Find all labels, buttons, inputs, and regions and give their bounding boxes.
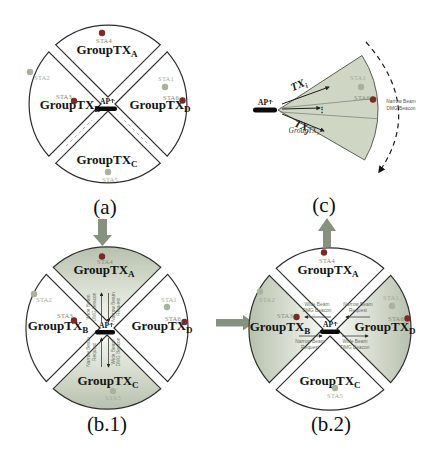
ap-antenna-icon <box>111 99 115 103</box>
sta1-dot <box>358 84 364 90</box>
sta2-label: STA2 <box>259 296 275 303</box>
caption-c: (c) <box>312 193 335 217</box>
sta6-label: STA6 <box>163 94 179 101</box>
sta1-dot <box>162 84 168 90</box>
panel-b1: GroupTXA GroupTXB GroupTXD GroupTXC STA4… <box>26 247 193 436</box>
narrow-beam-beacon-note-line2: DMG Beacon <box>387 106 416 111</box>
msg-narrow-beam-up: Narrow Beam <box>111 292 116 321</box>
sta2-dot <box>27 69 33 75</box>
panel-c: TXi ⋮ TXj STA1 STA6 Narrow Beam DMG Beac… <box>253 42 416 217</box>
group-n-label: GroupTXn <box>289 126 320 136</box>
msg-dmg-beacon-down: DMG Beacon <box>116 337 121 366</box>
sta6-dot <box>370 96 376 102</box>
ap-antenna-icon <box>110 323 114 327</box>
sta1-label: STA1 <box>161 296 177 303</box>
ap-device <box>320 330 340 335</box>
group-c-label: GroupTXC <box>299 373 360 390</box>
sta1-label: STA1 <box>383 294 399 301</box>
msg-dmg-beacon-up: DMG Beacon <box>92 292 97 321</box>
msg-narrow-beam-left: Narrow Beam <box>295 339 324 344</box>
sta5-dot <box>105 169 111 175</box>
connector-a-to-b1 <box>93 219 112 246</box>
ap-device <box>253 108 277 113</box>
group-c-label: GroupTXC <box>77 373 138 390</box>
msg-wide-beam-up: Wide Beam <box>86 295 91 320</box>
sta1-dot <box>164 304 170 310</box>
sta3-dot <box>71 317 77 323</box>
msg-request-right: Request <box>349 308 368 313</box>
sta3-label: STA3 <box>277 312 293 319</box>
group-b-label: GroupTXB <box>250 319 311 336</box>
beamforming-figure: GroupTXA GroupTXB GroupTXD GroupTXC STA4… <box>0 0 437 459</box>
sta1-dot <box>389 303 395 309</box>
ap-device <box>95 330 115 335</box>
sta1-label: STA1 <box>158 75 174 82</box>
sta5-label: STA5 <box>327 392 343 399</box>
msg-dmg-beacon-left: DMG Beacon <box>303 308 332 313</box>
msg-dmg-beacon-right: DMG Beacon <box>341 345 370 350</box>
ap-label: AP <box>99 321 109 330</box>
sta6-dot <box>181 319 187 325</box>
sta3-dot <box>293 314 299 320</box>
ap-device <box>95 107 117 112</box>
msg-wide-beam-right: Wide Beam <box>343 339 368 344</box>
tx-ellipsis: ⋮ <box>318 105 326 114</box>
ap-antenna-icon <box>269 100 273 104</box>
sta4-label: STA4 <box>319 257 335 264</box>
group-c-label: GroupTXC <box>76 152 137 169</box>
narrow-beam-fan <box>278 56 378 161</box>
sta2-dot <box>257 288 263 294</box>
caption-b1: (b.1) <box>87 412 127 436</box>
ap-label: AP <box>323 320 333 329</box>
caption-a: (a) <box>93 195 116 219</box>
msg-request-down: Request <box>92 342 97 361</box>
sta4-label: STA4 <box>97 258 113 265</box>
sta4-dot <box>99 30 105 36</box>
sta3-dot <box>71 98 77 104</box>
msg-request-left: Request <box>301 345 320 350</box>
caption-b2: (b.2) <box>311 412 351 436</box>
panel-a: GroupTXA GroupTXB GroupTXD GroupTXC STA4… <box>27 25 191 219</box>
sta4-label: STA4 <box>96 37 112 44</box>
ap-antenna-icon <box>334 322 338 326</box>
figure-canvas: GroupTXA GroupTXB GroupTXD GroupTXC STA4… <box>0 0 437 459</box>
sta6-label: STA6 <box>388 315 404 322</box>
connector-b1-to-b2 <box>216 315 254 331</box>
sta6-label: STA6 <box>165 315 181 322</box>
msg-wide-beam-left: Wide Beam <box>305 302 330 307</box>
sta2-label: STA2 <box>36 296 52 303</box>
msg-narrow-beam-down: Narrow Beam <box>86 337 91 366</box>
sta2-label: STA2 <box>34 74 50 81</box>
msg-request-up: Request <box>116 297 121 316</box>
group-a-label: GroupTXA <box>297 262 359 279</box>
sta3-label: STA3 <box>56 93 72 100</box>
panel-b2: GroupTXA GroupTXB GroupTXD GroupTXC STA4… <box>249 248 416 436</box>
ap-label: AP <box>258 98 268 107</box>
sta6-label: STA6 <box>354 94 370 101</box>
narrow-beam-beacon-note-line1: Narrow Beam <box>386 99 415 104</box>
ap-label: AP <box>100 97 110 106</box>
sta6-dot <box>179 97 185 103</box>
sta5-label: STA5 <box>102 176 118 183</box>
msg-narrow-beam-right: Narrow Beam <box>343 302 372 307</box>
connector-b2-to-c <box>318 218 336 247</box>
group-a-label: GroupTXA <box>76 42 138 59</box>
sta1-label: STA1 <box>350 74 366 81</box>
sta4-dot <box>321 249 327 255</box>
sta5-dot <box>332 385 338 391</box>
sta6-dot <box>404 315 410 321</box>
sta3-label: STA3 <box>57 312 73 319</box>
sta5-label: STA5 <box>105 394 121 401</box>
group-b-label: GroupTXB <box>28 318 89 335</box>
msg-wide-beam-down: Wide Beam <box>111 340 116 365</box>
